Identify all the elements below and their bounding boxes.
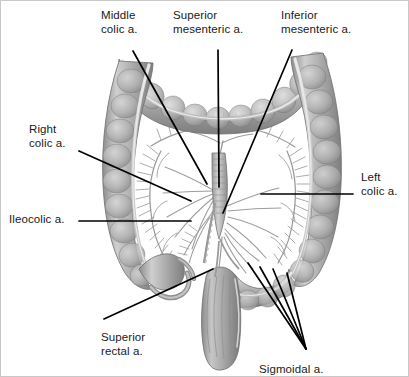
label-line-2: mesenteric a.: [173, 23, 243, 35]
label-sigmoidal: Sigmoidal a.: [259, 363, 323, 377]
cecum-and-ileum: [139, 254, 194, 298]
label-line-2: mesenteric a.: [281, 23, 351, 35]
label-right-colic: Rightcolic a.: [29, 123, 66, 150]
label-ileocolic: Ileocolic a.: [9, 213, 65, 227]
label-left-colic: Leftcolic a.: [361, 171, 398, 198]
label-line-2: rectal a.: [101, 345, 143, 357]
label-superior-rectal: Superiorrectal a.: [101, 331, 145, 358]
label-line-1: Left: [361, 171, 381, 183]
superior-mesenteric-artery-trunk: [204, 153, 240, 277]
label-line-1: Ileocolic a.: [9, 213, 65, 225]
rectum: [202, 267, 241, 370]
label-line-1: Superior: [101, 331, 145, 343]
label-line-1: Right: [29, 123, 56, 135]
label-inferior-mesenteric: Inferiormesenteric a.: [281, 9, 351, 36]
label-line-1: Inferior: [281, 9, 318, 21]
label-middle-colic: Middlecolic a.: [101, 9, 138, 36]
colon-anatomy-illustration: [1, 1, 409, 377]
label-line-1: Middle: [101, 9, 135, 21]
label-line-1: Superior: [173, 9, 217, 21]
anatomy-figure: Middlecolic a. Superiormesenteric a. Inf…: [0, 0, 409, 377]
label-line-1: Sigmoidal a.: [259, 363, 323, 375]
label-superior-mesenteric: Superiormesenteric a.: [173, 9, 243, 36]
label-line-2: colic a.: [101, 23, 138, 35]
label-line-2: colic a.: [29, 137, 66, 149]
label-line-2: colic a.: [361, 185, 398, 197]
